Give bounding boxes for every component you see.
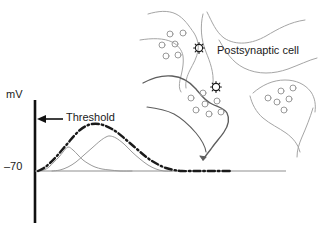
vesicle xyxy=(274,99,280,105)
threshold-arrow-head xyxy=(37,115,46,123)
vesicle xyxy=(290,85,296,91)
vesicle xyxy=(180,30,186,36)
vesicle xyxy=(188,95,194,101)
vesicle xyxy=(159,42,165,48)
vesicle xyxy=(206,111,212,117)
postsynaptic-cell-left-edge xyxy=(201,14,213,84)
vesicle xyxy=(286,96,292,102)
postsynaptic-cell-outline xyxy=(207,12,305,43)
figure-canvas xyxy=(0,0,319,231)
postsynaptic-cell-label: Postsynaptic cell xyxy=(217,45,299,56)
vesicle xyxy=(278,88,284,94)
terminal-middle-outline xyxy=(143,76,228,160)
terminal-middle-outline-lower xyxy=(147,107,206,152)
vesicle xyxy=(281,107,287,113)
y-axis-label: mV xyxy=(6,89,23,100)
vesicle xyxy=(167,31,173,37)
vesicle xyxy=(175,52,181,58)
vesicle xyxy=(200,90,206,96)
synapse-marker-icon xyxy=(194,43,205,54)
vesicle xyxy=(218,109,224,115)
vesicle xyxy=(265,95,271,101)
synapse-marker-icon xyxy=(211,82,222,93)
figure-root: mV –70 Threshold Postsynaptic cell xyxy=(0,0,319,231)
vesicle xyxy=(214,98,220,104)
threshold-label: Threshold xyxy=(66,112,115,123)
postsynaptic-cell-diagram xyxy=(140,11,317,160)
threshold-arrow xyxy=(37,115,63,123)
baseline-tick-label: –70 xyxy=(4,161,22,172)
vesicle xyxy=(163,53,169,59)
psp-curves xyxy=(38,124,230,171)
vesicle xyxy=(202,101,208,107)
axon-tail xyxy=(200,156,206,160)
vesicle xyxy=(193,107,199,113)
curve-epsp-1 xyxy=(38,147,132,171)
